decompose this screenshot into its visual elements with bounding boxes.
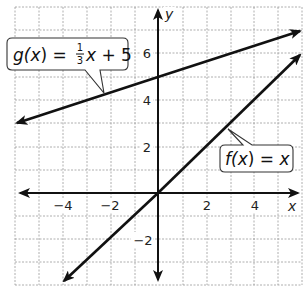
y-axis-label: y	[164, 6, 174, 22]
svg-text:6: 6	[143, 46, 151, 61]
coordinate-plane: −4 −2 2 4 6 4 2 −2 y x g(x) = 1 3 x + 5 …	[0, 0, 308, 287]
line-g	[158, 31, 300, 77]
x-axis-label: x	[287, 198, 297, 214]
svg-text:x + 5: x + 5	[85, 45, 132, 65]
line-g	[17, 77, 158, 123]
svg-text:−2: −2	[133, 233, 152, 248]
svg-text:1: 1	[77, 42, 83, 53]
svg-text:−4: −4	[53, 198, 72, 213]
svg-text:f(x) = x: f(x) = x	[225, 149, 290, 169]
f-function-callout: f(x) = x	[220, 129, 293, 172]
svg-text:4: 4	[143, 93, 151, 108]
g-function-callout: g(x) = 1 3 x + 5	[7, 38, 132, 93]
svg-text:3: 3	[77, 55, 83, 66]
svg-text:2: 2	[143, 140, 151, 155]
svg-text:−2: −2	[100, 198, 119, 213]
svg-text:2: 2	[203, 198, 211, 213]
y-tick-labels: 6 4 2 −2	[131, 45, 153, 248]
svg-text:g(x) =: g(x) =	[13, 45, 67, 65]
svg-text:4: 4	[251, 198, 259, 213]
x-tick-labels: −4 −2 2 4	[50, 198, 262, 213]
